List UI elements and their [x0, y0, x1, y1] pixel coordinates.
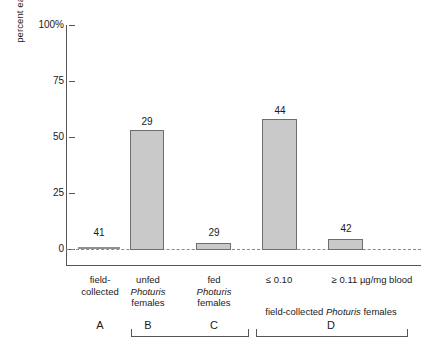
- x-category-fed-photuris-females: fed Photuris females: [178, 274, 250, 309]
- bracket-bc: [131, 329, 249, 337]
- x-category-unfed-photuris-females: unfed Photuris females: [112, 274, 184, 309]
- bracket-d: [256, 329, 408, 337]
- bar-label-lte-0-10: 44: [261, 106, 299, 116]
- bar-field-collected: [78, 247, 120, 249]
- bar-fed-photuris-females: [196, 243, 231, 250]
- group-d-caption-pre: field-collected: [265, 306, 326, 317]
- bar-label-field-collected: 41: [78, 228, 120, 238]
- bar-unfed-photuris-females: [130, 130, 164, 250]
- x-category-fed-line2: Photuris: [197, 286, 232, 297]
- bar-label-gte-0-11: 42: [327, 224, 365, 234]
- x-category-gte-0-11: ≥ 0.11 µg/mg blood: [312, 274, 432, 286]
- bar-label-fed-photuris-females: 29: [195, 228, 233, 238]
- x-category-unfed-line3: females: [112, 297, 184, 309]
- bar-label-unfed-photuris-females: 29: [128, 117, 166, 127]
- x-category-fed-line1: fed: [178, 274, 250, 286]
- group-d-caption: field-collected Photuris females: [256, 306, 406, 318]
- group-d-caption-italic: Photuris: [326, 306, 361, 317]
- bar-gte-0-11: [328, 239, 363, 250]
- x-category-unfed-line1: unfed: [112, 274, 184, 286]
- x-category-lte-0-10: ≤ 0.10: [243, 274, 315, 286]
- x-category-fed-line3: females: [178, 297, 250, 309]
- group-d-caption-post: females: [361, 306, 397, 317]
- chart-figure: percent eaten by spider 100% 75 50 25 0 …: [0, 0, 433, 344]
- bar-lte-0-10: [262, 119, 297, 250]
- x-category-unfed-line2: Photuris: [131, 286, 166, 297]
